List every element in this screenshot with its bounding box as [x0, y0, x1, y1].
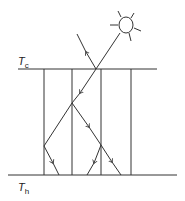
- diagram: [0, 0, 185, 201]
- hot-temperature-label: Th: [18, 181, 29, 196]
- light-rays: [44, 33, 121, 175]
- vertical-lines: [44, 69, 131, 175]
- label-main: T: [18, 55, 25, 67]
- label-sub: c: [25, 61, 29, 70]
- label-main: T: [18, 181, 25, 193]
- label-sub: h: [25, 187, 29, 196]
- sun-icon: [110, 11, 141, 41]
- cold-temperature-label: Tc: [18, 55, 29, 70]
